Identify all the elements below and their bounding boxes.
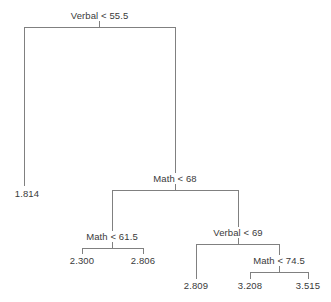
split-label-math-74-5: Math < 74.5 xyxy=(252,255,306,266)
leaf-value-3-208: 3.208 xyxy=(237,280,263,291)
decision-tree-figure: Verbal < 55.5 Math < 68 Math < 61.5 Verb… xyxy=(0,0,331,302)
leaf-value-1-814: 1.814 xyxy=(14,188,40,199)
split-label-math-61-5: Math < 61.5 xyxy=(85,231,139,242)
split-label-verbal-55-5: Verbal < 55.5 xyxy=(70,10,130,21)
leaf-value-2-806: 2.806 xyxy=(130,255,156,266)
split-label-verbal-69: Verbal < 69 xyxy=(212,227,263,238)
leaf-value-2-809: 2.809 xyxy=(183,280,209,291)
split-label-math-68: Math < 68 xyxy=(152,173,197,184)
leaf-value-3-515: 3.515 xyxy=(295,280,321,291)
leaf-value-2-300: 2.300 xyxy=(69,255,95,266)
